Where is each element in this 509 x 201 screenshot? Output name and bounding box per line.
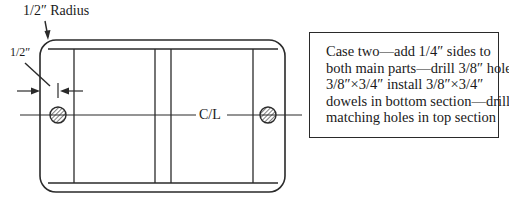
radius-label: 1/2″ Radius (23, 4, 89, 18)
centerline-label: C/L (199, 108, 221, 122)
width-leader-line (25, 63, 50, 86)
dimension-arrow-right-icon (60, 88, 83, 95)
dimension-arrow-left-icon (17, 88, 40, 95)
radius-arrow-icon (45, 21, 51, 40)
note-line: 3/8″×3/4″ install 3/8″×3/4″ (326, 76, 490, 93)
note-line: matching holes in top section (326, 109, 490, 126)
instruction-note-box: Case two—add 1/4″ sides to both main par… (309, 32, 499, 138)
note-line: both main parts—drill 3/8″ holes (326, 60, 490, 77)
note-line: Case two—add 1/4″ sides to (326, 43, 490, 60)
outer-case-outline (40, 40, 285, 192)
width-label: 1/2″ (10, 46, 30, 58)
dowel-hole-right (260, 107, 276, 123)
dowel-hole-left (50, 107, 66, 123)
note-line: dowels in bottom section—drill (326, 93, 490, 110)
